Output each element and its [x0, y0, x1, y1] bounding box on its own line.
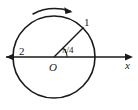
label-origin: O [49, 62, 57, 73]
geometry-figure: 1 2 O π/4 x [0, 0, 138, 110]
rotation-arrow-icon [33, 9, 70, 14]
label-axis-x: x [125, 60, 130, 71]
arrow-left-icon [6, 54, 14, 61]
rotation-arrowhead-icon [64, 7, 72, 14]
label-point-1: 1 [84, 17, 90, 28]
label-point-2: 2 [19, 46, 25, 57]
label-angle-pi-over-4: π/4 [62, 46, 74, 55]
